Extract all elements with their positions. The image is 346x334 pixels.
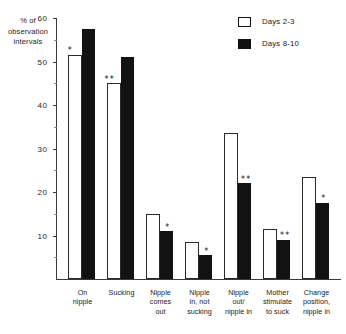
y-tick-10: 10 bbox=[53, 236, 57, 237]
bar bbox=[121, 57, 135, 279]
significance-marker: * bbox=[68, 48, 73, 53]
bar-group: * bbox=[146, 18, 173, 279]
bar-group: * bbox=[302, 18, 329, 279]
bar bbox=[277, 240, 291, 279]
x-axis-label-line: sucking bbox=[180, 307, 220, 316]
y-tick-50: 50 bbox=[53, 62, 57, 63]
x-axis-label-line: nipple in bbox=[219, 307, 259, 316]
x-axis-label-line: Nipple bbox=[219, 288, 259, 297]
bar bbox=[82, 29, 96, 279]
x-axis-label: Nippleout/nipple in bbox=[219, 288, 259, 316]
x-axis-label-line: out/ bbox=[219, 297, 259, 306]
y-minor-tick-55 bbox=[54, 40, 57, 41]
significance-marker: * bbox=[321, 196, 326, 201]
x-axis-label-line: in, not bbox=[180, 297, 220, 306]
y-tick-label-60: 60 bbox=[37, 14, 47, 23]
x-axis-label: Onnipple bbox=[63, 288, 103, 307]
y-tick-20: 20 bbox=[53, 192, 57, 193]
y-minor-tick-25 bbox=[54, 170, 57, 171]
bar bbox=[316, 203, 330, 279]
x-axis-label-line: Change bbox=[297, 288, 337, 297]
bar-group: ** bbox=[107, 18, 134, 279]
plot-area: 102030405060 ********** bbox=[56, 18, 341, 280]
x-axis-label-line: stimulate bbox=[258, 297, 298, 306]
bar-group: ** bbox=[263, 18, 290, 279]
y-tick-label-20: 20 bbox=[37, 188, 47, 197]
y-axis-title-line-3: intervals bbox=[2, 37, 54, 48]
x-axis-label-line: Mother bbox=[258, 288, 298, 297]
bar bbox=[238, 183, 252, 279]
y-axis-title-line-2: observation bbox=[2, 27, 54, 38]
y-minor-tick-5 bbox=[54, 257, 57, 258]
bar bbox=[302, 177, 316, 279]
y-tick-label-10: 10 bbox=[37, 231, 47, 240]
y-tick-label-30: 30 bbox=[37, 144, 47, 153]
significance-marker: ** bbox=[105, 77, 115, 82]
x-axis-label-line: On bbox=[63, 288, 103, 297]
x-axis-line bbox=[56, 279, 341, 280]
x-axis-label-line: Sucking bbox=[102, 288, 142, 297]
bar bbox=[107, 83, 121, 279]
x-axis-label-line: out bbox=[141, 307, 181, 316]
bar-group: ** bbox=[224, 18, 251, 279]
x-axis-label-line: position, bbox=[297, 297, 337, 306]
bar bbox=[146, 214, 160, 279]
significance-marker: ** bbox=[280, 233, 290, 238]
x-axis-label: Nipplecomesout bbox=[141, 288, 181, 316]
significance-marker: * bbox=[204, 249, 209, 254]
y-minor-tick-35 bbox=[54, 127, 57, 128]
y-minor-tick-15 bbox=[54, 214, 57, 215]
bar-chart: % of observation intervals Days 2-3 Days… bbox=[0, 0, 346, 334]
y-tick-30: 30 bbox=[53, 149, 57, 150]
x-axis-label-line: to suck bbox=[258, 307, 298, 316]
x-axis-label-line: nipple bbox=[63, 297, 103, 306]
x-axis-label-line: Nipple bbox=[141, 288, 181, 297]
y-tick-label-50: 50 bbox=[37, 57, 47, 66]
x-axis-label: Motherstimulateto suck bbox=[258, 288, 298, 316]
bar bbox=[263, 229, 277, 279]
significance-marker: ** bbox=[241, 177, 251, 182]
bar bbox=[160, 231, 174, 279]
x-axis-label-line: nipple in bbox=[297, 307, 337, 316]
bar bbox=[224, 133, 238, 279]
bar-group: * bbox=[185, 18, 212, 279]
x-axis-label-line: Nipple bbox=[180, 288, 220, 297]
x-axis-label: Sucking bbox=[102, 288, 142, 297]
y-tick-60: 60 bbox=[53, 18, 57, 19]
x-axis-label: Changeposition,nipple in bbox=[297, 288, 337, 316]
bar-group: * bbox=[68, 18, 95, 279]
x-axis-label: Nipplein, notsucking bbox=[180, 288, 220, 316]
bar bbox=[68, 55, 82, 279]
bar bbox=[199, 255, 213, 279]
significance-marker: * bbox=[165, 225, 170, 230]
y-minor-tick-45 bbox=[54, 83, 57, 84]
bar bbox=[185, 242, 199, 279]
x-axis-label-line: comes bbox=[141, 297, 181, 306]
y-tick-label-40: 40 bbox=[37, 101, 47, 110]
y-tick-40: 40 bbox=[53, 105, 57, 106]
